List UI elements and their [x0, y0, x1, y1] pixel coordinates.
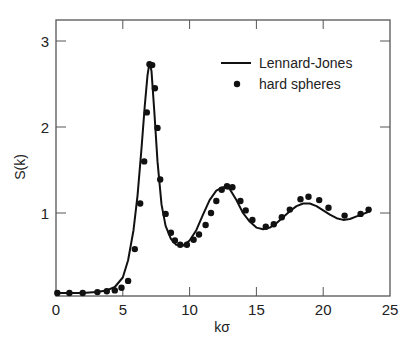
x-tick-label: 0 — [52, 301, 60, 318]
x-tick-label: 25 — [382, 301, 399, 318]
hard-sphere-point — [249, 217, 255, 223]
legend-label-hard-spheres: hard spheres — [259, 76, 341, 92]
hard-sphere-point — [154, 125, 160, 131]
hard-sphere-point — [137, 200, 143, 206]
lennard-jones-path — [56, 63, 370, 294]
hard-sphere-point — [196, 231, 202, 237]
hard-sphere-point — [271, 221, 277, 227]
hard-sphere-point — [213, 198, 219, 204]
hard-sphere-point — [141, 158, 147, 164]
hard-sphere-point — [177, 242, 183, 248]
hard-sphere-point — [190, 237, 196, 243]
legend: Lennard-Jones hard spheres — [221, 55, 352, 92]
tick-labels: 0510152025123 — [41, 33, 399, 318]
legend-label-lennard-jones: Lennard-Jones — [259, 55, 352, 71]
structure-factor-chart: 0510152025123 kσ S(k) Lennard-Jones hard… — [0, 0, 411, 353]
hard-sphere-point — [263, 224, 269, 230]
hard-sphere-point — [80, 290, 86, 296]
hard-sphere-point — [341, 212, 347, 218]
hard-sphere-point — [325, 205, 331, 211]
x-tick-label: 15 — [248, 301, 265, 318]
hard-sphere-point — [365, 206, 371, 212]
y-tick-label: 1 — [41, 205, 49, 222]
hard-sphere-point — [149, 62, 155, 68]
hard-sphere-point — [94, 289, 100, 295]
hard-sphere-point — [243, 207, 249, 213]
hard-sphere-point — [162, 211, 168, 217]
hard-sphere-point — [287, 206, 293, 212]
hard-sphere-point — [237, 198, 243, 204]
hard-sphere-point — [125, 278, 131, 284]
hard-sphere-point — [202, 222, 208, 228]
hard-sphere-point — [144, 109, 150, 115]
hard-sphere-point — [184, 242, 190, 248]
hard-sphere-point — [219, 187, 225, 193]
hard-sphere-point — [297, 196, 303, 202]
hard-sphere-point — [54, 290, 60, 296]
hard-sphere-point — [279, 214, 285, 220]
hard-sphere-point — [229, 184, 235, 190]
y-axis-label: S(k) — [12, 154, 28, 180]
y-tick-label: 2 — [41, 119, 49, 136]
y-tick-label: 3 — [41, 33, 49, 50]
hard-sphere-point — [208, 210, 214, 216]
hard-spheres-points — [54, 61, 372, 296]
x-tick-label: 10 — [181, 301, 198, 318]
x-axis-label: kσ — [214, 319, 230, 335]
hard-sphere-point — [132, 246, 138, 252]
hard-sphere-point — [118, 285, 124, 291]
hard-sphere-point — [157, 176, 163, 182]
hard-sphere-point — [357, 211, 363, 217]
x-tick-label: 20 — [315, 301, 332, 318]
hard-sphere-point — [152, 85, 158, 91]
lennard-jones-curve — [56, 63, 370, 294]
x-tick-label: 5 — [119, 301, 127, 318]
hard-sphere-point — [224, 183, 230, 189]
hard-sphere-point — [305, 194, 311, 200]
hard-sphere-point — [66, 290, 72, 296]
hard-sphere-point — [112, 287, 118, 293]
hard-sphere-point — [316, 197, 322, 203]
hard-sphere-point — [104, 288, 110, 294]
hard-sphere-point — [168, 230, 174, 236]
legend-dot-swatch — [234, 81, 240, 87]
hard-sphere-point — [172, 237, 178, 243]
